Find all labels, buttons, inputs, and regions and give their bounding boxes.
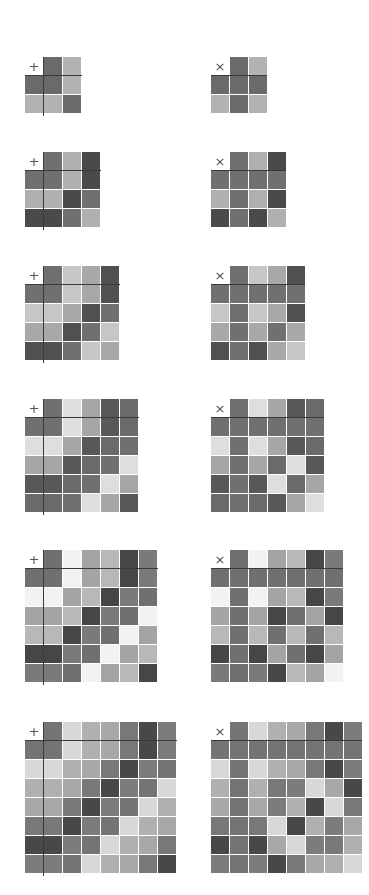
table-cell <box>287 323 305 341</box>
header-column-cell <box>287 399 305 417</box>
table-cell <box>82 855 100 873</box>
table-cell <box>249 836 267 854</box>
header-column-cell <box>63 399 81 417</box>
table-cell <box>249 494 267 512</box>
table-cell <box>230 418 248 436</box>
table-cell <box>230 798 248 816</box>
table-cell <box>63 323 81 341</box>
header-row-cell <box>25 475 43 493</box>
table-cell <box>101 456 119 474</box>
header-column-cell <box>230 550 248 568</box>
header-column-cell <box>268 550 286 568</box>
table-cell <box>230 779 248 797</box>
table-cell <box>101 569 119 587</box>
table-cell <box>230 304 248 322</box>
table-cell <box>63 76 81 94</box>
addition-symbol: + <box>25 399 43 417</box>
table-cell <box>325 588 343 606</box>
table-cell <box>120 607 138 625</box>
table-cell <box>120 494 138 512</box>
table-cell <box>230 836 248 854</box>
table-cell <box>230 569 248 587</box>
table-cell <box>306 798 324 816</box>
table-cell <box>120 817 138 835</box>
header-column-cell <box>230 399 248 417</box>
table-cell <box>158 798 176 816</box>
table-cell <box>120 418 138 436</box>
table-cell <box>325 569 343 587</box>
table-cell <box>139 798 157 816</box>
table-cell <box>249 588 267 606</box>
header-column-divider <box>43 399 44 515</box>
header-row-cell <box>211 209 229 227</box>
table-cell <box>44 798 62 816</box>
table-cell <box>306 817 324 835</box>
addition-symbol: + <box>25 550 43 568</box>
table-cell <box>230 645 248 663</box>
table-cell <box>44 418 62 436</box>
table-cell <box>325 664 343 682</box>
table-cell <box>230 494 248 512</box>
table-cell <box>287 285 305 303</box>
table-cell <box>63 171 81 189</box>
table-cell <box>82 664 100 682</box>
header-column-cell <box>249 266 267 284</box>
header-column-cell <box>139 550 157 568</box>
table-cell <box>325 626 343 644</box>
table-cell <box>101 855 119 873</box>
table-cell <box>268 855 286 873</box>
table-cell <box>268 418 286 436</box>
table-cell <box>306 475 324 493</box>
table-cell <box>268 285 286 303</box>
table-cell <box>44 437 62 455</box>
header-row-cell <box>25 817 43 835</box>
table-cell <box>325 836 343 854</box>
header-column-cell <box>306 550 324 568</box>
table-cell <box>101 323 119 341</box>
header-row-cell <box>211 190 229 208</box>
header-column-cell <box>63 266 81 284</box>
table-cell <box>306 456 324 474</box>
header-column-cell <box>249 550 267 568</box>
multiplication-symbol: × <box>211 152 229 170</box>
table-cell <box>268 626 286 644</box>
table-cell <box>268 779 286 797</box>
addition-table-mod-5: + <box>25 399 139 513</box>
header-row-cell <box>25 645 43 663</box>
table-cell <box>249 664 267 682</box>
header-row-divider <box>25 568 158 569</box>
table-cell <box>249 817 267 835</box>
table-cell <box>120 626 138 644</box>
table-cell <box>306 437 324 455</box>
table-cell <box>249 285 267 303</box>
table-cell <box>230 760 248 778</box>
header-column-cell <box>268 266 286 284</box>
table-cell <box>63 836 81 854</box>
table-cell <box>325 760 343 778</box>
header-row-divider <box>211 284 305 285</box>
table-cell <box>82 437 100 455</box>
header-column-cell <box>268 399 286 417</box>
table-cell <box>120 855 138 873</box>
header-row-cell <box>211 664 229 682</box>
header-column-cell <box>249 722 267 740</box>
header-row-cell <box>211 817 229 835</box>
header-row-cell <box>25 607 43 625</box>
table-cell <box>101 475 119 493</box>
table-cell <box>344 760 362 778</box>
header-row-cell <box>25 569 43 587</box>
table-cell <box>120 664 138 682</box>
header-column-cell <box>120 399 138 417</box>
header-column-cell <box>268 152 286 170</box>
table-cell <box>82 741 100 759</box>
addition-table-mod-2: + <box>25 57 82 114</box>
table-cell <box>63 494 81 512</box>
table-cell <box>44 475 62 493</box>
header-column-cell <box>101 399 119 417</box>
header-row-cell <box>25 836 43 854</box>
table-cell <box>63 209 81 227</box>
header-column-cell <box>249 152 267 170</box>
addition-symbol: + <box>25 57 43 75</box>
table-cell <box>120 645 138 663</box>
header-column-cell <box>230 266 248 284</box>
